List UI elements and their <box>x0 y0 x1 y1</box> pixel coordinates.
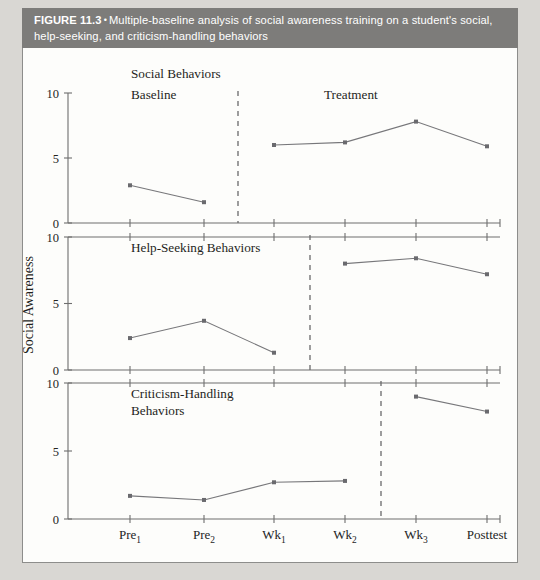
x-axis-label: Pre2 <box>193 527 215 545</box>
panel-title-criticism-handling-behaviors-line2: Behaviors <box>131 403 184 418</box>
series-line-baseline <box>130 185 204 202</box>
data-point <box>414 120 418 124</box>
series-line-treatment <box>345 258 487 274</box>
panel-title-social-behaviors: Social Behaviors <box>131 66 221 81</box>
data-point <box>414 395 418 399</box>
figure-root: FIGURE 11.3•Multiple-baseline analysis o… <box>0 0 540 580</box>
multiple-baseline-chart: 051005100510Social BehaviorsHelp-Seeking… <box>0 0 540 580</box>
data-point <box>202 319 206 323</box>
y-tick-label: 5 <box>53 445 59 459</box>
data-point <box>485 410 489 414</box>
data-point <box>202 200 206 204</box>
data-point <box>128 183 132 187</box>
y-tick-label: 10 <box>47 377 60 391</box>
data-point <box>272 143 276 147</box>
series-line-treatment <box>274 122 487 147</box>
data-point <box>343 479 347 483</box>
data-point <box>128 336 132 340</box>
x-axis-label: Wk2 <box>333 527 357 545</box>
y-tick-label: 5 <box>53 297 59 311</box>
x-axis-label: Wk3 <box>404 527 428 545</box>
y-tick-label: 0 <box>53 217 59 231</box>
data-point <box>343 262 347 266</box>
series-line-treatment <box>416 397 487 412</box>
x-axis-label: Posttest <box>467 527 508 542</box>
y-axis-label: Social Awareness <box>21 256 36 354</box>
phase-label-treatment: Treatment <box>324 87 378 102</box>
panel-1: 0510 <box>47 87 501 231</box>
y-tick-label: 10 <box>47 231 60 245</box>
data-point <box>343 140 347 144</box>
y-tick-label: 5 <box>53 152 59 166</box>
data-point <box>272 351 276 355</box>
panel-2: 0510 <box>47 231 501 378</box>
y-tick-label: 0 <box>53 364 59 378</box>
data-point <box>128 494 132 498</box>
panel-title-help-seeking-behaviors: Help-Seeking Behaviors <box>131 240 260 255</box>
y-tick-label: 10 <box>47 87 60 101</box>
series-line-baseline <box>130 481 345 500</box>
series-line-baseline <box>130 321 274 353</box>
x-axis-label: Pre1 <box>119 527 141 545</box>
x-axis-label: Wk1 <box>262 527 286 545</box>
panel-title-criticism-handling-behaviors: Criticism-Handling <box>131 386 234 401</box>
data-point <box>272 480 276 484</box>
y-tick-label: 0 <box>53 513 59 527</box>
phase-label-baseline: Baseline <box>131 87 177 102</box>
panel-3: 0510 <box>47 377 501 527</box>
data-point <box>485 272 489 276</box>
data-point <box>485 144 489 148</box>
data-point <box>414 256 418 260</box>
data-point <box>202 498 206 502</box>
